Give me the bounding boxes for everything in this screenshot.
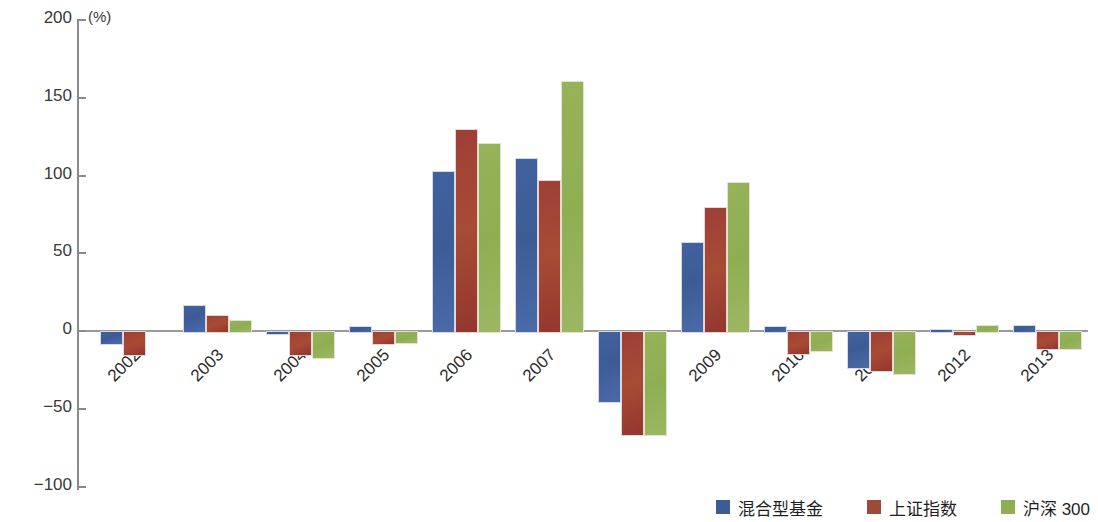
bar-2013-green <box>1059 331 1082 350</box>
bar-2011-green <box>893 331 916 375</box>
bar-group-2009 <box>681 0 758 522</box>
y-tick-label-neg50: −50 <box>12 398 72 415</box>
y-tick-label-150: 150 <box>12 87 72 104</box>
legend-label: 沪深 300 <box>1023 495 1090 520</box>
red-swatch-icon <box>867 500 881 514</box>
bar-2008-red <box>621 331 644 436</box>
bar-2008-green <box>644 331 667 436</box>
bar-2006-green <box>478 143 501 333</box>
y-axis-line <box>77 20 79 490</box>
legend-label: 上证指数 <box>889 495 957 520</box>
bar-2004-green <box>312 331 335 359</box>
y-tick-label-100: 100 <box>12 165 72 182</box>
bar-2011-red <box>870 331 893 372</box>
y-tick-mark <box>77 408 86 410</box>
bar-group-2002 <box>100 0 177 522</box>
y-tick-label-200: 200 <box>12 9 72 26</box>
bar-2003-green <box>229 320 252 333</box>
blue-swatch-icon <box>716 500 730 514</box>
bar-group-2011 <box>847 0 924 522</box>
y-tick-mark <box>77 330 86 332</box>
green-swatch-icon <box>1001 500 1015 514</box>
bar-group-2005 <box>349 0 426 522</box>
bar-2012-blue <box>930 329 953 333</box>
y-tick-label-50: 50 <box>12 242 72 259</box>
plot-area: 2002200320042005200620072008200920102011… <box>86 0 1088 522</box>
bar-chart: (%) 200150100500−50−100 2002200320042005… <box>0 0 1098 522</box>
y-tick-mark <box>77 97 86 99</box>
bar-2013-red <box>1036 331 1059 350</box>
bar-group-2010 <box>764 0 841 522</box>
bar-2002-red <box>123 331 146 356</box>
y-axis-tick-labels: 200150100500−50−100 <box>10 0 72 522</box>
bar-group-2007 <box>515 0 592 522</box>
bar-2003-red <box>206 315 229 333</box>
bar-2013-blue <box>1013 325 1036 333</box>
bar-group-2008 <box>598 0 675 522</box>
bar-2005-green <box>395 331 418 344</box>
y-tick-mark <box>77 252 86 254</box>
legend-label: 混合型基金 <box>738 495 823 520</box>
y-tick-label-0: 0 <box>12 320 72 337</box>
bar-2004-blue <box>266 331 289 335</box>
bar-2005-red <box>372 331 395 345</box>
bar-2010-green <box>810 331 833 352</box>
bar-2007-blue <box>515 158 538 333</box>
bar-group-2004 <box>266 0 343 522</box>
bar-2009-green <box>727 182 750 333</box>
legend-item-green[interactable]: 沪深 300 <box>1001 495 1090 520</box>
bar-2005-blue <box>349 326 372 333</box>
bar-group-2012 <box>930 0 1007 522</box>
chart-legend: 混合型基金上证指数沪深 300 <box>0 492 1098 522</box>
bar-2007-red <box>538 180 561 333</box>
bar-2009-red <box>704 207 727 333</box>
y-tick-mark <box>77 19 86 21</box>
bar-2006-red <box>455 129 478 333</box>
bar-2010-blue <box>764 326 787 333</box>
y-tick-label-neg100: −100 <box>12 476 72 493</box>
bar-group-2003 <box>183 0 260 522</box>
bar-2006-blue <box>432 171 455 333</box>
bar-2008-blue <box>598 331 621 403</box>
legend-item-red[interactable]: 上证指数 <box>867 495 957 520</box>
bar-2012-red <box>953 331 976 336</box>
bar-2003-blue <box>183 305 206 333</box>
y-tick-mark <box>77 486 86 488</box>
bar-2007-green <box>561 81 584 333</box>
bar-2010-red <box>787 331 810 355</box>
bar-2011-blue <box>847 331 870 369</box>
bar-2002-blue <box>100 331 123 345</box>
bar-2009-blue <box>681 242 704 333</box>
bar-2004-red <box>289 331 312 356</box>
y-tick-mark <box>77 175 86 177</box>
bar-group-2006 <box>432 0 509 522</box>
bar-2012-green <box>976 325 999 333</box>
legend-item-blue[interactable]: 混合型基金 <box>716 495 823 520</box>
bar-group-2013 <box>1013 0 1090 522</box>
